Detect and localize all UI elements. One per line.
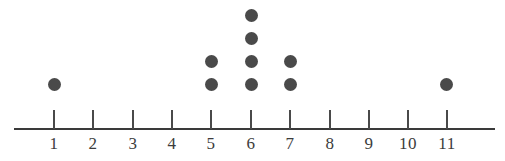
x-axis-tick-label: 8 [310,133,350,155]
data-dot [245,9,258,22]
x-axis-tick-label: 1 [34,133,74,155]
x-axis-tick [329,110,331,129]
x-axis-tick [250,110,252,129]
data-dot [284,78,297,91]
x-axis-line [14,128,495,130]
x-axis-tick-label: 3 [113,133,153,155]
data-dot [205,78,218,91]
x-axis-tick-label: 6 [231,133,271,155]
x-axis-tick [132,110,134,129]
x-axis-tick [210,110,212,129]
x-axis-tick-label: 7 [270,133,310,155]
data-dot [245,55,258,68]
x-axis-tick [53,110,55,129]
data-dot [48,78,61,91]
x-axis-tick-label: 9 [349,133,389,155]
x-axis-tick-label: 4 [152,133,192,155]
data-dot [440,78,453,91]
x-axis-tick-label: 5 [191,133,231,155]
x-axis-tick-label: 11 [427,133,467,155]
data-dot [245,32,258,45]
x-axis-tick-label: 10 [388,133,428,155]
dot-plot-chart: 1234567891011 [0,0,505,161]
data-dot [284,55,297,68]
x-axis-tick [407,110,409,129]
x-axis-tick [368,110,370,129]
x-axis-tick [92,110,94,129]
data-dot [245,78,258,91]
x-axis-tick-label: 2 [73,133,113,155]
x-axis-tick [446,110,448,129]
data-dot [205,55,218,68]
x-axis-tick [289,110,291,129]
x-axis-tick [171,110,173,129]
